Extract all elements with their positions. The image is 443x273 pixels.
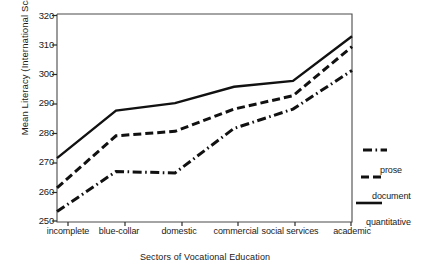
axis-frame [57,14,352,222]
y-axis-ticks [52,16,57,222]
plot-canvas [0,0,443,273]
data-series-layer [57,36,352,211]
series-line-document [57,47,352,188]
x-axis-ticks [68,222,351,226]
legend-swatches [356,150,387,203]
series-line-quantitative [57,36,352,158]
chart-figure: Mean Literacy (International Scales) Sec… [0,0,443,273]
series-line-prose [57,70,352,211]
